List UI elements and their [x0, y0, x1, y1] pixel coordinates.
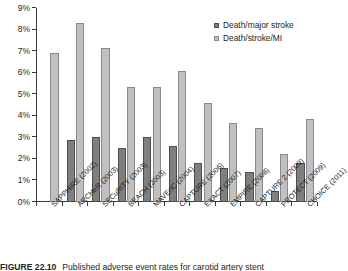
y-axis-tick-mark: [32, 93, 36, 94]
bar: [306, 119, 314, 202]
caption-label: FIGURE 22.10: [0, 262, 56, 271]
y-axis-tick-label: 7%: [18, 46, 30, 55]
y-axis-tick-label: 1%: [18, 175, 30, 184]
legend-swatch-icon: [214, 36, 219, 41]
caption-text: Published adverse event rates for caroti…: [62, 262, 264, 271]
y-axis-tick-label: 9%: [18, 3, 30, 12]
y-axis-tick-mark: [32, 50, 36, 51]
y-axis-tick-label: 6%: [18, 68, 30, 77]
chart-legend: Death/major strokeDeath/stroke/MI: [214, 20, 318, 46]
bar: [50, 53, 58, 202]
bar: [229, 123, 237, 202]
legend-label: Death/major stroke: [223, 20, 294, 30]
y-axis-tick-mark: [32, 179, 36, 180]
y-axis-tick-mark: [32, 136, 36, 137]
y-axis-tick-label: 4%: [18, 111, 30, 120]
y-axis-tick-label: 3%: [18, 132, 30, 141]
y-axis-tick-label: 5%: [18, 89, 30, 98]
bar: [255, 128, 263, 202]
legend-item: Death/stroke/MI: [214, 33, 318, 43]
y-axis-tick-mark: [32, 115, 36, 116]
legend-swatch-icon: [214, 23, 219, 28]
y-axis-tick-label: 2%: [18, 154, 30, 163]
y-axis-tick-label: 0%: [18, 197, 30, 206]
bar-group: [37, 8, 63, 202]
legend-item: Death/major stroke: [214, 20, 318, 30]
y-axis-tick-mark: [32, 158, 36, 159]
x-axis-labels: SAPPHIRE (2002)ARCHeR (2003)SECuRITY (20…: [36, 203, 317, 255]
y-axis-tick-label: 8%: [18, 25, 30, 34]
figure-caption: FIGURE 22.10Published adverse event rate…: [0, 262, 323, 271]
y-axis-tick-mark: [32, 7, 36, 8]
y-axis-tick-mark: [32, 29, 36, 30]
legend-label: Death/stroke/MI: [223, 33, 282, 43]
y-axis-tick-mark: [32, 72, 36, 73]
